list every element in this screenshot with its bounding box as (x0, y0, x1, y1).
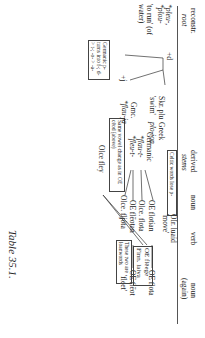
connector-lines (0, 0, 205, 338)
rotated-table: reconstr. root derived stems noun verb n… (0, 0, 205, 338)
